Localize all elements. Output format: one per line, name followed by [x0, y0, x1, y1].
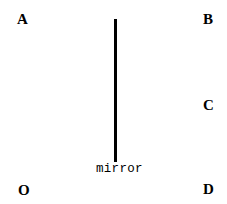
mirror-label: mirror [96, 163, 143, 176]
point-a-label: A [17, 12, 28, 27]
mirror-line [114, 19, 117, 162]
mirror-diagram: A B C O D mirror [0, 0, 227, 204]
point-d-label: D [203, 182, 214, 197]
point-c-label: C [203, 98, 214, 113]
point-o-label: O [18, 183, 30, 198]
point-b-label: B [203, 12, 213, 27]
